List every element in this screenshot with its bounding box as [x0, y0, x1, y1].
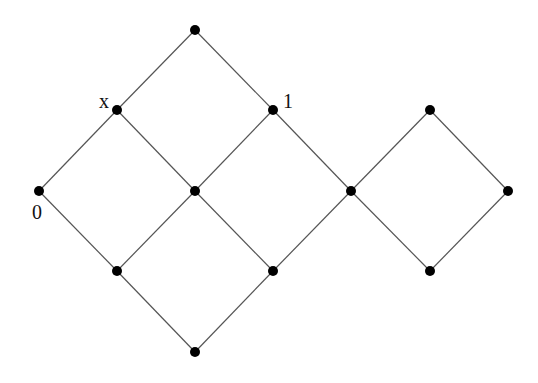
- edge-one-center: [195, 110, 273, 191]
- edge-center-bottom-right: [195, 191, 273, 271]
- node-top: [190, 25, 200, 35]
- node-join: [346, 186, 356, 196]
- edge-one-join: [273, 110, 351, 191]
- node-right-bottom: [425, 266, 435, 276]
- edge-join-right-top: [351, 110, 430, 191]
- edge-zero-bottom-left: [39, 191, 117, 271]
- node-bottom-left: [112, 266, 122, 276]
- edge-layer: [39, 30, 508, 352]
- edge-bottom-left-bottom: [117, 271, 195, 352]
- edge-x-zero: [39, 110, 117, 191]
- edge-x-center: [117, 110, 195, 191]
- node-one: [268, 105, 278, 115]
- node-label-zero: 0: [32, 201, 42, 223]
- node-bottom-right: [268, 266, 278, 276]
- node-layer: [34, 25, 513, 357]
- lattice-diagram: x10: [0, 0, 538, 383]
- node-x: [112, 105, 122, 115]
- edge-right-top-right-right: [430, 110, 508, 191]
- node-right-right: [503, 186, 513, 196]
- node-right-top: [425, 105, 435, 115]
- node-zero: [34, 186, 44, 196]
- edge-center-bottom-left: [117, 191, 195, 271]
- edge-join-right-bottom: [351, 191, 430, 271]
- edge-right-bottom-right-right: [430, 191, 508, 271]
- edge-top-x: [117, 30, 195, 110]
- node-label-x: x: [99, 90, 109, 112]
- edge-join-bottom-right: [273, 191, 351, 271]
- edge-bottom-right-bottom: [195, 271, 273, 352]
- node-label-one: 1: [283, 90, 293, 112]
- node-bottom: [190, 347, 200, 357]
- node-center: [190, 186, 200, 196]
- edge-top-one: [195, 30, 273, 110]
